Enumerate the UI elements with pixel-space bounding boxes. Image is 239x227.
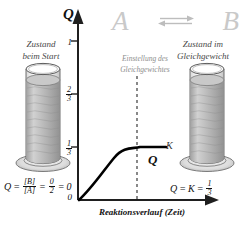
y-tick-13-numerator: 1 — [66, 140, 72, 148]
y-tick-label-1: 1 — [58, 37, 72, 47]
left-formula-result: 0 — [67, 181, 72, 192]
y-tick-23-numerator: 2 — [66, 86, 72, 94]
left-formula-numerator-b: [B] — [23, 178, 36, 186]
y-tick-label-one-third: 1 3 — [58, 138, 72, 158]
left-formula: Q = [B] [A] = 0 2 = 0 — [4, 178, 72, 196]
y-tick-label-two-thirds: 2 3 — [58, 84, 72, 104]
y-tick-23-denominator: 3 — [66, 94, 72, 103]
left-formula-concentration-ratio: [B] [A] — [23, 178, 36, 196]
left-formula-equals-2: = — [39, 181, 46, 192]
asymptote-label-k: K — [166, 140, 173, 151]
y-axis-ticks — [71, 41, 78, 147]
equilibrium-diagram: A B Q Zustand beim Start Zustand im Glei… — [0, 0, 239, 227]
y-tick-13-denominator: 3 — [66, 148, 72, 157]
y-axis — [73, 9, 84, 200]
left-formula-denominator-2: 2 — [49, 186, 55, 195]
right-formula-denominator: 3 — [206, 188, 212, 197]
right-formula-equals-2: = — [197, 183, 204, 194]
curve-label-q: Q — [148, 152, 157, 168]
right-formula: Q = K = 1 3 — [170, 180, 213, 198]
left-formula-numerator-0: 0 — [49, 178, 55, 186]
right-formula-value-fraction: 1 3 — [206, 180, 212, 198]
right-formula-q: Q — [170, 183, 177, 194]
right-formula-equals-1: = — [179, 183, 186, 194]
left-formula-equals-1: = — [13, 181, 20, 192]
right-formula-numerator: 1 — [206, 180, 212, 188]
left-formula-equals-3: = — [58, 181, 65, 192]
left-formula-denominator-a: [A] — [23, 186, 36, 195]
left-formula-number-ratio: 0 2 — [49, 178, 55, 196]
right-formula-k: K — [188, 183, 195, 194]
left-formula-q: Q — [4, 181, 11, 192]
x-axis-title: Reaktionsverlauf (Zeit) — [72, 207, 212, 217]
